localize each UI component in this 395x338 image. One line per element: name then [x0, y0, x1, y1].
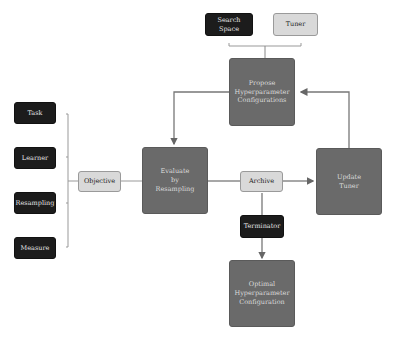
evaluate-by-resampling-box: Evaluate by Resampling [142, 147, 208, 214]
resampling-box: Resampling [14, 192, 56, 214]
measure-box: Measure [14, 237, 56, 259]
archive-box: Archive [240, 171, 283, 192]
optimal-configuration-box: Optimal Hyperparameter Configuration [229, 260, 295, 327]
learner-box: Learner [14, 147, 56, 169]
task-box: Task [14, 102, 56, 124]
objective-box: Objective [78, 171, 121, 192]
tuner-box: Tuner [273, 13, 318, 36]
terminator-box: Terminator [240, 215, 284, 238]
update-tuner-box: Update Tuner [316, 148, 382, 215]
propose-configurations-box: Propose Hyperparameter Configurations [229, 58, 295, 126]
search-space-box: Search Space [205, 13, 253, 36]
